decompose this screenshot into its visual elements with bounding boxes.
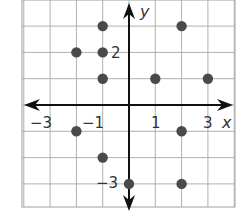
data-point <box>176 179 186 189</box>
data-point <box>150 74 160 84</box>
y-tick-label-2: 2 <box>111 44 121 62</box>
data-point <box>124 179 134 189</box>
y-axis-label: y <box>139 2 150 21</box>
data-point <box>71 47 81 57</box>
data-point <box>98 152 108 162</box>
tick-labels: −3 −1 1 3 2 −3 x y <box>30 2 232 192</box>
data-point <box>176 126 186 136</box>
x-tick-label-neg1: −1 <box>82 114 104 132</box>
coordinate-plane: −3 −1 1 3 2 −3 x y <box>0 0 236 214</box>
x-axis-label: x <box>221 113 232 132</box>
data-point <box>203 74 213 84</box>
x-tick-label-1: 1 <box>151 114 161 132</box>
data-point <box>176 21 186 31</box>
data-point <box>98 47 108 57</box>
x-tick-label-neg3: −3 <box>30 114 52 132</box>
data-point <box>71 126 81 136</box>
y-tick-label-neg3: −3 <box>96 174 118 192</box>
x-tick-label-3: 3 <box>203 114 213 132</box>
data-point <box>98 21 108 31</box>
data-point <box>98 74 108 84</box>
